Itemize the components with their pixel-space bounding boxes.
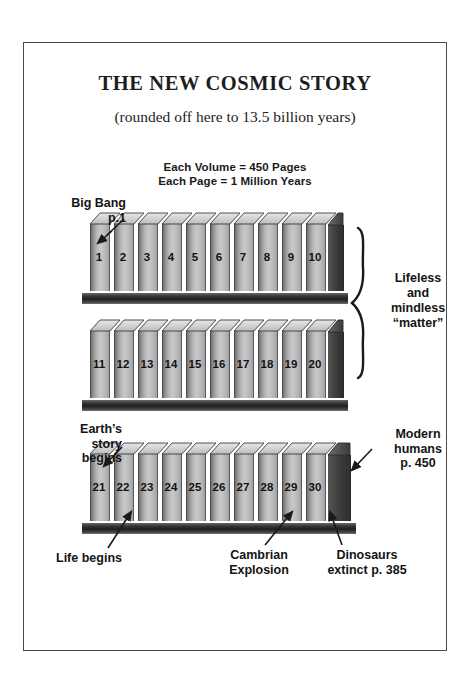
book-volume: 26 [208, 443, 230, 521]
book-volume: 8 [256, 213, 278, 291]
book-volume: 17 [232, 320, 254, 398]
book-volume: 3 [136, 213, 158, 291]
legend-line-volume: Each Volume = 450 Pages [0, 161, 470, 175]
book-volume: 11 [88, 320, 110, 398]
book-volume: 7 [232, 213, 254, 291]
shelf-row-3: 21 22 23 24 25 26 27 28 29 30 [88, 443, 368, 538]
scale-legend: Each Volume = 450 Pages Each Page = 1 Mi… [0, 161, 470, 188]
book-volume: 27 [232, 443, 254, 521]
page-title: THE NEW COSMIC STORY [0, 72, 470, 95]
annotation-modern-humans: Modern humans p. 450 [376, 427, 460, 471]
book-volume: 23 [136, 443, 158, 521]
book-volume: 5 [184, 213, 206, 291]
cosmic-story-figure: THE NEW COSMIC STORY (rounded off here t… [0, 0, 470, 684]
book-volume: 6 [208, 213, 230, 291]
book-volume: 20 [304, 320, 326, 398]
shelf-end-block [328, 332, 344, 398]
annotation-earth-story: Earth’s story begins [36, 422, 122, 466]
book-volume: 12 [112, 320, 134, 398]
book-volume: 9 [280, 213, 302, 291]
book-volume: 29 [280, 443, 302, 521]
book-volume: 16 [208, 320, 230, 398]
book-volume: 4 [160, 213, 182, 291]
annotation-life-begins: Life begins [56, 551, 166, 566]
book-volume: 19 [280, 320, 302, 398]
book-volume: 24 [160, 443, 182, 521]
book-volume: 28 [256, 443, 278, 521]
shelf-row-2: 11 12 13 14 15 16 17 18 19 20 [88, 320, 358, 415]
book-volume: 10 [304, 213, 326, 291]
annotation-lifeless: Lifeless and mindless “matter” [382, 271, 454, 331]
shelf-end-block [328, 455, 351, 521]
page-subtitle: (rounded off here to 13.5 billion years) [0, 108, 470, 126]
legend-line-page: Each Page = 1 Million Years [0, 175, 470, 189]
annotation-cambrian: Cambrian Explosion [213, 548, 305, 577]
shelf-bar [82, 400, 348, 411]
book-volume: 14 [160, 320, 182, 398]
annotation-big-bang: Big Bang p.1 [48, 196, 126, 225]
annotation-dinosaurs: Dinosaurs extinct p. 385 [302, 548, 432, 577]
book-volume: 18 [256, 320, 278, 398]
book-volume: 30 [304, 443, 326, 521]
shelf-end-block [328, 225, 344, 291]
book-volume: 15 [184, 320, 206, 398]
shelf-row-1: 1 2 3 4 5 6 7 8 9 10 [88, 213, 358, 308]
book-volume: 25 [184, 443, 206, 521]
shelf-bar [82, 293, 348, 304]
book-volume: 13 [136, 320, 158, 398]
shelf-bar [82, 523, 356, 534]
